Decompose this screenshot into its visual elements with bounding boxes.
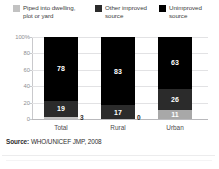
chart-legend: Piped into dwelling, plot or yard Other … — [13, 4, 213, 19]
legend-label-unimproved: Unimproved source — [169, 4, 202, 19]
bar-value-total-piped: 3 — [80, 114, 84, 121]
bar-segment-urban-unimproved[interactable]: 63 — [158, 37, 192, 89]
y-tick-80: 80 — [4, 50, 30, 56]
x-axis-labels: Total Rural Urban — [32, 124, 208, 134]
y-tick-20: 20 — [4, 100, 30, 106]
bar-value-rural-unimproved: 83 — [114, 68, 122, 75]
bar-value-total-unimproved: 78 — [57, 65, 65, 72]
chart-card: Piped into dwelling, plot or yard Other … — [0, 0, 219, 169]
bar-group-urban[interactable]: 63 26 11 — [158, 37, 192, 119]
legend-item-unimproved: Unimproved source — [159, 4, 209, 19]
legend-label-other-improved: Other improved source — [105, 4, 147, 19]
y-axis-ticks: 100% 80 60 40 20 0 — [0, 37, 30, 119]
legend-swatch-piped-icon — [13, 5, 20, 12]
bar-group-total[interactable]: 78 19 3 — [44, 37, 78, 119]
plot-area: 78 19 3 83 17 0 63 26 — [32, 37, 208, 119]
bar-group-rural[interactable]: 83 17 0 — [101, 37, 135, 119]
bar-value-urban-piped: 11 — [171, 111, 178, 118]
source-value: WHO/UNICEF JMP, 2008 — [31, 138, 102, 145]
bar-segment-total-unimproved[interactable]: 78 — [44, 37, 78, 101]
bar-value-urban-other-improved: 26 — [171, 96, 179, 103]
legend-swatch-unimproved-icon — [159, 5, 166, 12]
bottom-divider — [2, 155, 215, 156]
legend-label-piped: Piped into dwelling, plot or yard — [23, 4, 75, 19]
y-tick-0: 0 — [4, 116, 30, 122]
bottom-divider-secondary — [6, 160, 212, 161]
bar-value-urban-unimproved: 63 — [171, 59, 179, 66]
source-label: Source: — [6, 138, 29, 145]
bar-segment-total-piped[interactable] — [44, 117, 78, 119]
x-label-total: Total — [38, 124, 84, 132]
bar-segment-urban-piped[interactable]: 11 — [158, 110, 192, 119]
source-note: Source: WHO/UNICEF JMP, 2008 — [6, 137, 102, 146]
y-tick-60: 60 — [4, 67, 30, 73]
legend-swatch-other-improved-icon — [95, 5, 102, 12]
bar-segment-rural-unimproved[interactable]: 83 — [101, 37, 135, 105]
legend-item-other-improved: Other improved source — [95, 4, 153, 19]
y-tick-100: 100% — [4, 34, 30, 40]
bar-value-total-other-improved: 19 — [57, 105, 65, 112]
bar-segment-rural-other-improved[interactable]: 17 — [101, 105, 135, 119]
x-label-rural: Rural — [95, 124, 141, 132]
bar-segment-total-other-improved[interactable]: 19 — [44, 101, 78, 117]
bar-value-rural-piped: 0 — [137, 114, 141, 121]
x-label-urban: Urban — [152, 124, 198, 132]
bar-value-rural-other-improved: 17 — [114, 109, 122, 116]
x-axis-line — [32, 119, 208, 120]
y-tick-40: 40 — [4, 83, 30, 89]
bar-segment-urban-other-improved[interactable]: 26 — [158, 89, 192, 110]
legend-item-piped: Piped into dwelling, plot or yard — [13, 4, 89, 19]
